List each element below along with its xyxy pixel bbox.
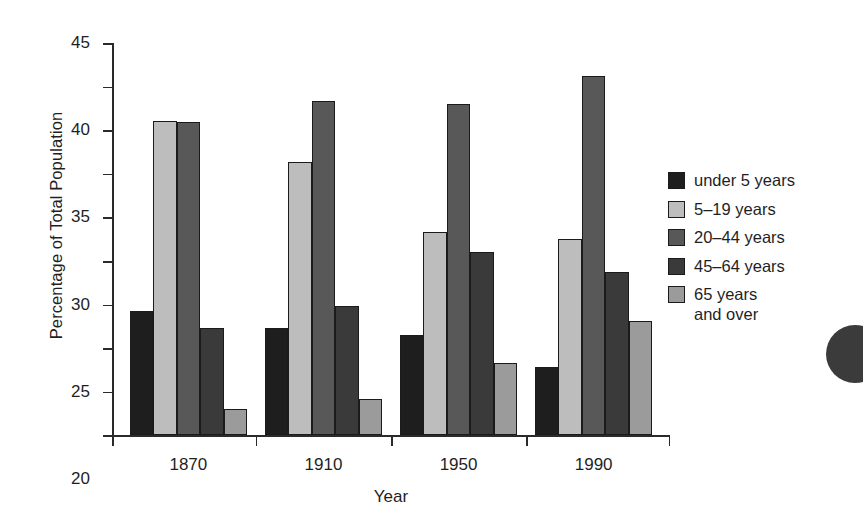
bar: [288, 162, 312, 436]
bar: [629, 321, 653, 435]
legend-swatch-icon: [668, 201, 685, 218]
y-axis-title: Percentage of Total Population: [47, 66, 66, 386]
y-tick: 5: [103, 392, 112, 394]
bar-chart-figure: Percentage of Total Population 051015202…: [0, 0, 863, 512]
x-tick-label: 1990: [575, 455, 613, 475]
bar: [447, 104, 471, 435]
plot-area: 051015202530354045 1870191019501990 Year: [112, 43, 670, 437]
y-tick-label: 25: [71, 382, 90, 402]
y-tick: 25: [103, 217, 112, 219]
legend-label: 20–44 years: [694, 227, 785, 247]
legend-item: 45–64 years: [668, 256, 853, 276]
x-tick-label: 1910: [305, 455, 343, 475]
bar: [400, 335, 424, 435]
y-tick: 30: [103, 174, 112, 176]
y-tick-label: 30: [71, 295, 90, 315]
y-tick-label: 20: [71, 469, 90, 489]
x-axis-title: Year: [112, 487, 670, 507]
x-tick: [256, 437, 258, 446]
bar: [335, 306, 359, 435]
x-tick: [112, 437, 114, 446]
bar: [359, 399, 383, 436]
legend-label: 65 years and over: [694, 284, 758, 324]
bar: [153, 121, 177, 436]
legend-swatch-icon: [668, 286, 685, 303]
y-tick: 10: [103, 348, 112, 350]
bar: [200, 328, 224, 435]
bar: [470, 252, 494, 435]
y-tick: 35: [103, 130, 112, 132]
bar: [177, 122, 201, 436]
legend-item: 20–44 years: [668, 227, 853, 247]
bar: [312, 101, 336, 436]
x-tick: [526, 437, 528, 446]
legend-label: under 5 years: [694, 170, 795, 190]
y-tick-label: 40: [71, 120, 90, 140]
legend-swatch-icon: [668, 172, 685, 189]
y-tick: 20: [103, 261, 112, 263]
y-tick: 40: [103, 87, 112, 89]
y-tick: 0: [103, 435, 112, 437]
legend-swatch-icon: [668, 229, 685, 246]
bar: [535, 367, 559, 435]
bar: [224, 409, 248, 435]
y-tick: 45: [103, 43, 112, 45]
y-tick-label: 45: [71, 33, 90, 53]
bar: [494, 363, 518, 435]
y-axis-line: [112, 43, 114, 437]
legend-item: 65 years and over: [668, 284, 853, 324]
bar: [605, 272, 629, 435]
legend-item: 5–19 years: [668, 199, 853, 219]
legend-label: 5–19 years: [694, 199, 776, 219]
x-tick-label: 1950: [440, 455, 478, 475]
x-tick: [391, 437, 393, 446]
x-tick-label: 1870: [169, 455, 207, 475]
legend-item: under 5 years: [668, 170, 853, 190]
legend-swatch-icon: [668, 258, 685, 275]
legend: under 5 years5–19 years20–44 years45–64 …: [668, 170, 853, 333]
bar: [582, 76, 606, 435]
legend-label: 45–64 years: [694, 256, 785, 276]
bar: [423, 232, 447, 435]
x-tick: [669, 437, 671, 446]
bar: [558, 239, 582, 435]
bar: [130, 311, 154, 436]
bar: [265, 328, 289, 435]
decorative-circle: [826, 325, 863, 383]
y-tick: 15: [103, 305, 112, 307]
y-tick-label: 35: [71, 207, 90, 227]
